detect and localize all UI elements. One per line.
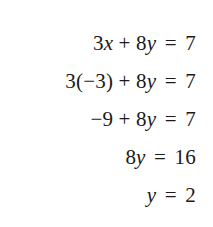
equation-line-2: 3(−3) + 8y = 7 <box>65 62 196 100</box>
equation-line-1: 3x + 8y = 7 <box>93 24 196 62</box>
equation-line-5: y = 2 <box>147 176 196 214</box>
equation-line-3: −9 + 8y = 7 <box>90 100 196 138</box>
equation-line-4: 8y = 16 <box>125 138 196 176</box>
equation-worksheet: 3x + 8y = 7 3(−3) + 8y = 7 −9 + 8y = 7 8… <box>0 0 213 227</box>
